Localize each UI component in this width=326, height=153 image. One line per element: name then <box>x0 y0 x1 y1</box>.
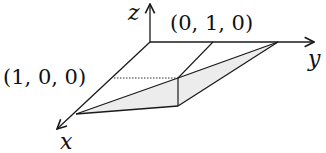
x-axis-label: x <box>60 129 73 153</box>
point-label-010: (0, 1, 0) <box>170 11 253 35</box>
coordinate-diagram: z y x (0, 1, 0) (1, 0, 0) <box>0 0 326 153</box>
z-axis-label: z <box>127 0 140 25</box>
y-axis-label: y <box>307 46 321 71</box>
point-label-100: (1, 0, 0) <box>3 65 86 89</box>
